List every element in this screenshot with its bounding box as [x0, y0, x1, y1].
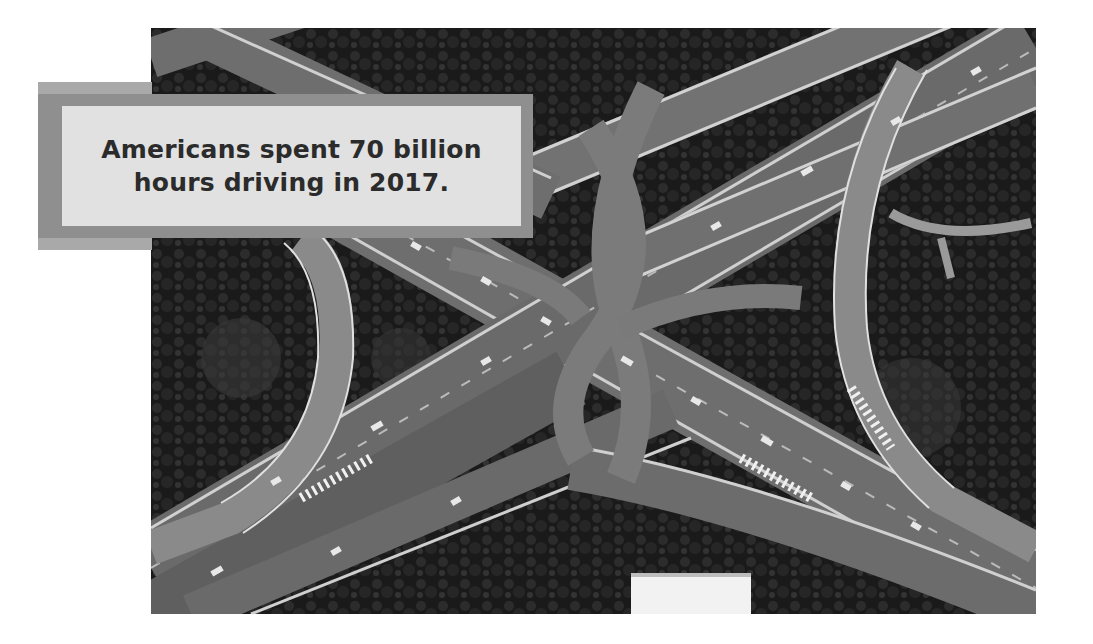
callout-line-1: Americans spent 70 billion [101, 133, 481, 166]
callout-panel: Americans spent 70 billion hours driving… [62, 106, 521, 226]
callout-text: Americans spent 70 billion hours driving… [101, 133, 481, 199]
callout-line-2: hours driving in 2017. [101, 166, 481, 199]
